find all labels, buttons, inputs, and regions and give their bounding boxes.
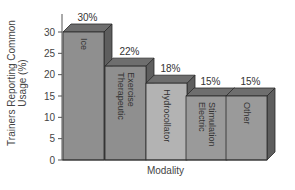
bar-category-label: Other — [242, 102, 252, 125]
value-label: 15% — [240, 76, 260, 87]
bar-top — [105, 58, 154, 66]
y-tick-label: 5 — [49, 133, 55, 144]
value-label: 22% — [119, 46, 139, 57]
value-label: 30% — [77, 12, 97, 23]
bar-top — [63, 24, 112, 32]
svg-text:Exercise: Exercise — [126, 72, 136, 107]
x-axis-label: Modality — [18, 165, 295, 176]
svg-text:Electric: Electric — [197, 102, 207, 132]
y-tick-label: 20 — [44, 69, 56, 80]
y-axis-label: Trainers Reporting Common Usage (%) — [6, 18, 28, 148]
bar-ice — [63, 32, 104, 160]
y-tick-label: 25 — [44, 48, 56, 59]
svg-text:Other: Other — [242, 102, 252, 125]
y-tick-label: 10 — [44, 112, 56, 123]
svg-text:Stimulation: Stimulation — [207, 102, 217, 147]
value-label: 15% — [200, 76, 220, 87]
svg-text:Ice: Ice — [79, 38, 89, 50]
bar-chart: 05101520253030%Ice22%TherapeuticExercise… — [0, 0, 295, 190]
bar-top — [226, 88, 275, 96]
bar-top — [146, 75, 195, 83]
y-tick-label: 30 — [44, 27, 56, 38]
svg-text:Hydrocollator: Hydrocollator — [162, 89, 172, 142]
bar-category-label: Ice — [79, 38, 89, 50]
bar-category-label: Hydrocollator — [162, 89, 172, 142]
value-label: 18% — [160, 63, 180, 74]
bar-side — [267, 88, 275, 160]
y-tick-label: 0 — [49, 155, 55, 166]
svg-text:Therapeutic: Therapeutic — [116, 72, 126, 120]
y-tick-label: 15 — [44, 91, 56, 102]
